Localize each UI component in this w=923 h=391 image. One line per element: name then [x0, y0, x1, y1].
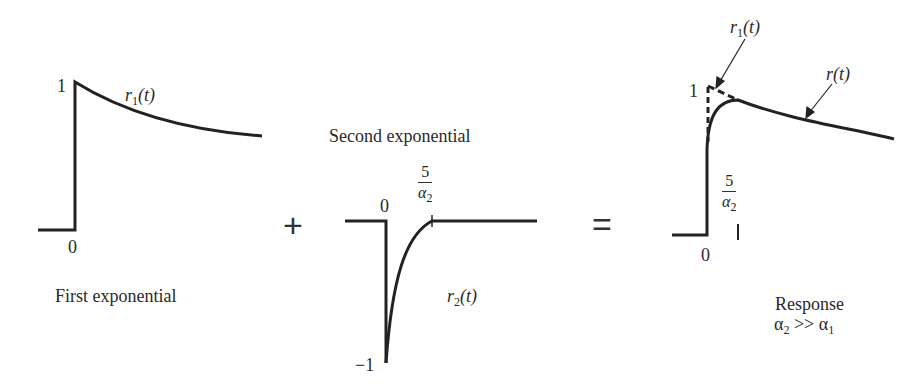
response-arrow-r-label: r(t) [826, 65, 850, 83]
response-plot [672, 86, 894, 235]
equals-operator: = [592, 207, 612, 241]
plus-operator: + [283, 208, 303, 242]
first-curve-label: r1(t) [125, 86, 155, 104]
response-marker-fraction: 5 α2 [722, 173, 736, 210]
second-exponential-plot [345, 215, 537, 363]
second-x-tick: 0 [380, 197, 389, 215]
first-x-tick: 0 [68, 238, 77, 256]
second-marker-fraction: 5 α2 [418, 164, 432, 201]
second-caption: Second exponential [329, 127, 470, 145]
first-y-tick: 1 [57, 77, 66, 95]
response-x-tick: 0 [701, 246, 710, 264]
arrow-r1-icon [716, 39, 745, 88]
second-curve-label: r2(t) [447, 287, 477, 305]
response-condition: α2 >> α1 [774, 315, 834, 333]
response-arrow-r1-label: r1(t) [730, 18, 760, 36]
first-caption: First exponential [55, 287, 176, 305]
second-y-tick: −1 [355, 356, 374, 374]
response-caption: Response [775, 295, 844, 313]
response-y-tick: 1 [689, 82, 698, 100]
arrow-r-icon [806, 84, 832, 118]
